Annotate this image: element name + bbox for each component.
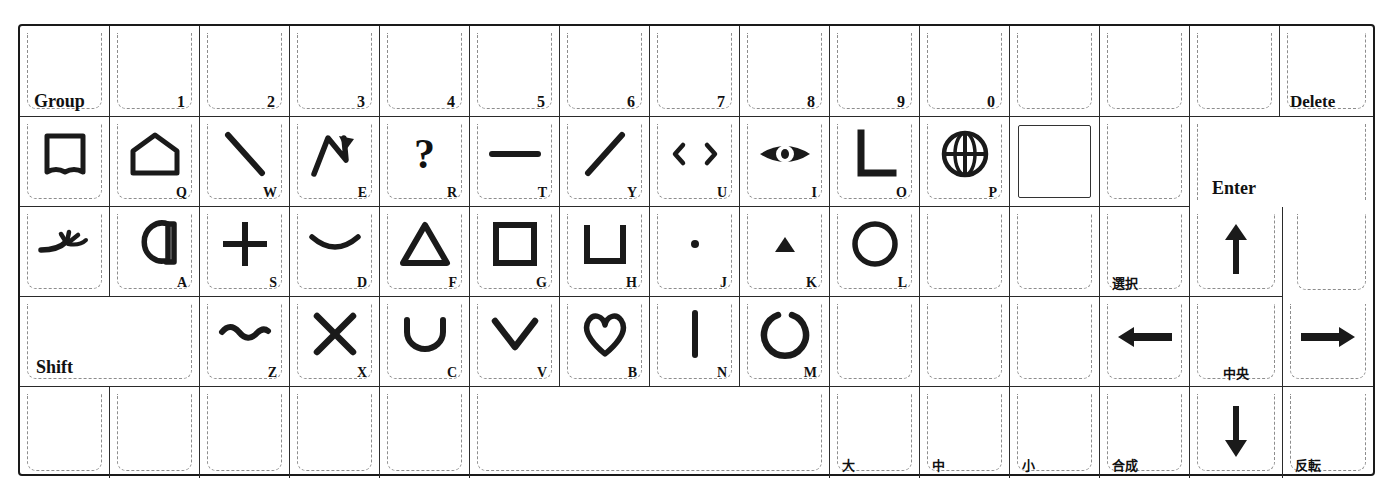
key-x[interactable]: X (290, 297, 380, 387)
key-blank-r5-d[interactable] (290, 387, 380, 478)
key-invert[interactable]: 反転 (1283, 387, 1373, 478)
key-6[interactable]: 6 (560, 26, 650, 117)
keyboard-overlay-sheet: Group 1 2 3 4 5 6 7 8 9 0 (18, 24, 1375, 476)
key-t[interactable]: T (470, 117, 560, 207)
key-m[interactable]: M (740, 297, 830, 387)
key-arrow-right[interactable] (1283, 297, 1373, 387)
key-e[interactable]: E (290, 117, 380, 207)
slash-line-icon (560, 121, 649, 186)
key-3[interactable]: 3 (290, 26, 380, 117)
sprout-branch-icon (20, 211, 109, 276)
key-0[interactable]: 0 (920, 26, 1010, 117)
key-blank-r2-a[interactable] (1100, 117, 1190, 207)
key-square-outline[interactable] (1010, 117, 1100, 207)
key-center[interactable]: 中央 (1190, 297, 1283, 387)
u-bracket-icon (560, 211, 649, 276)
open-circle-gap-icon (740, 301, 829, 366)
key-l[interactable]: L (830, 207, 920, 297)
key-spacebar[interactable] (470, 387, 830, 478)
key-5[interactable]: 5 (470, 26, 560, 117)
key-9[interactable]: 9 (830, 26, 920, 117)
key-v[interactable]: V (470, 297, 560, 387)
arrow-up-icon (1190, 211, 1282, 286)
key-label: T (538, 186, 547, 200)
key-label: G (536, 276, 547, 290)
key-b[interactable]: B (560, 297, 650, 387)
key-f[interactable]: F (380, 207, 470, 297)
key-g[interactable]: G (470, 207, 560, 297)
key-label: O (896, 186, 907, 200)
key-d[interactable]: D (290, 207, 380, 297)
key-r[interactable]: ? R (380, 117, 470, 207)
key-blank-r1-c[interactable] (1190, 26, 1280, 117)
key-label: 1 (177, 94, 185, 110)
key-c[interactable]: C (380, 297, 470, 387)
key-blank-r5-a[interactable] (20, 387, 110, 478)
key-label: 4 (447, 94, 455, 110)
key-z[interactable]: Z (200, 297, 290, 387)
u-arc-icon (380, 301, 469, 366)
key-blank-r3-a[interactable] (920, 207, 1010, 297)
key-blank-r4-c[interactable] (1010, 297, 1100, 387)
key-n[interactable]: N (650, 297, 740, 387)
key-label: M (804, 366, 817, 380)
key-blank-r4-a[interactable] (830, 297, 920, 387)
key-label: 5 (537, 94, 545, 110)
key-w[interactable]: W (200, 117, 290, 207)
key-enter[interactable]: Enter (1190, 117, 1373, 207)
key-blank-r3-b[interactable] (1010, 207, 1100, 297)
key-7[interactable]: 7 (650, 26, 740, 117)
key-blank-r5-b[interactable] (110, 387, 200, 478)
key-arrow-left[interactable] (1100, 297, 1190, 387)
key-delete[interactable]: Delete (1280, 26, 1373, 117)
key-label: L (898, 276, 907, 290)
key-blank-r5-c[interactable] (200, 387, 290, 478)
vertical-line-icon (650, 301, 739, 366)
key-face (1107, 33, 1182, 109)
key-face (927, 214, 1002, 289)
key-size-large[interactable]: 大 (830, 387, 920, 478)
key-blank-r1-a[interactable] (1010, 26, 1100, 117)
key-label: I (812, 186, 817, 200)
key-k[interactable]: K (740, 207, 830, 297)
key-4[interactable]: 4 (380, 26, 470, 117)
key-h[interactable]: H (560, 207, 650, 297)
key-1[interactable]: 1 (110, 26, 200, 117)
arc-down-icon (290, 211, 379, 276)
key-8[interactable]: 8 (740, 26, 830, 117)
key-sprout[interactable] (20, 207, 110, 297)
tilde-wave-icon (200, 301, 289, 366)
key-arrow-down[interactable] (1190, 387, 1283, 478)
key-p[interactable]: P (920, 117, 1010, 207)
key-face (1017, 304, 1092, 379)
key-y[interactable]: Y (560, 117, 650, 207)
key-label: Q (176, 186, 187, 200)
key-arrow-up[interactable] (1190, 207, 1283, 297)
key-group[interactable]: Group (20, 26, 110, 117)
key-face (1197, 33, 1272, 109)
key-q[interactable]: Q (110, 117, 200, 207)
key-j[interactable]: J (650, 207, 740, 297)
key-label: H (626, 276, 637, 290)
key-label: S (269, 276, 277, 290)
key-blank-r5-e[interactable] (380, 387, 470, 478)
key-s[interactable]: S (200, 207, 290, 297)
key-u[interactable]: U (650, 117, 740, 207)
key-a[interactable]: A (110, 207, 200, 297)
key-composite[interactable]: 合成 (1100, 387, 1190, 478)
small-triangle-up-icon (740, 211, 829, 276)
key-size-medium[interactable]: 中 (920, 387, 1010, 478)
key-blank-r1-b[interactable] (1100, 26, 1190, 117)
key-book[interactable] (20, 117, 110, 207)
key-label: 中 (932, 459, 945, 472)
key-label: Delete (1290, 93, 1335, 110)
key-enter-tail[interactable] (1283, 207, 1373, 297)
key-2[interactable]: 2 (200, 26, 290, 117)
key-blank-r4-b[interactable] (920, 297, 1010, 387)
key-label: R (447, 186, 457, 200)
key-size-small[interactable]: 小 (1010, 387, 1100, 478)
key-select[interactable]: 選択 (1100, 207, 1190, 297)
key-shift[interactable]: Shift (20, 297, 200, 387)
key-o[interactable]: O (830, 117, 920, 207)
key-i[interactable]: I (740, 117, 830, 207)
